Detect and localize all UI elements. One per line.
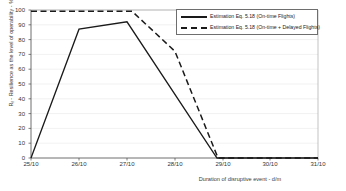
legend-item-ontime: Estimation Eq. 5.18 (On-time Flights)	[181, 12, 295, 22]
legend-swatch-solid-line-icon	[181, 16, 207, 18]
legend: Estimation Eq. 5.18 (On-time Flights) Es…	[176, 9, 318, 35]
legend-label-ontime: Estimation Eq. 5.18 (On-time Flights)	[210, 14, 295, 19]
legend-label-ontime-delayed: Estimation Eq. 5.18 (On-time + Delayed F…	[210, 25, 320, 30]
legend-item-ontime-delayed: Estimation Eq. 5.18 (On-time + Delayed F…	[181, 23, 320, 33]
chart-figure: Rf - Resilience as the level of operabil…	[0, 0, 346, 191]
series-line-ontime	[31, 22, 318, 158]
legend-swatch-dashed-line-icon	[181, 27, 207, 29]
